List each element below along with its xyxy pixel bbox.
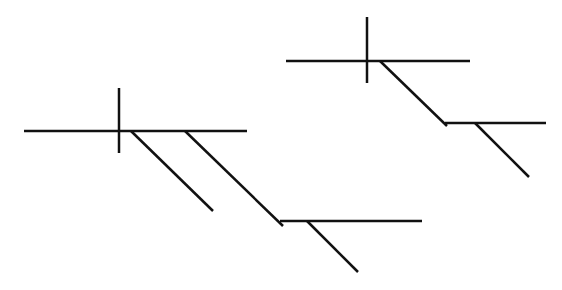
- left-modifier-slant-2-line: [185, 131, 283, 226]
- diagram-svg: [0, 0, 562, 290]
- left-sub-slant-line: [307, 221, 358, 272]
- left-sentence-diagram: [24, 88, 422, 272]
- right-modifier-slant-line: [380, 61, 447, 126]
- right-sub-slant-line: [475, 123, 529, 177]
- sentence-diagram-canvas: [0, 0, 562, 290]
- right-sentence-diagram: [286, 17, 546, 177]
- left-modifier-slant-1-line: [131, 131, 213, 211]
